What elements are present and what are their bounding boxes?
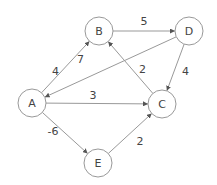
node-label: A bbox=[28, 97, 36, 110]
node-B: B bbox=[85, 17, 113, 45]
edge-C-B: 2 bbox=[108, 42, 153, 94]
edge-weight-label: 3 bbox=[90, 89, 97, 102]
edge-arrow bbox=[108, 42, 153, 94]
graph-diagram: 457243-62 ABCDE bbox=[0, 0, 217, 185]
node-D: D bbox=[175, 17, 203, 45]
node-label: B bbox=[95, 25, 103, 38]
edge-weight-label: 5 bbox=[141, 15, 148, 28]
edge-B-D: 5 bbox=[113, 15, 175, 32]
edge-weight-label: 4 bbox=[182, 65, 189, 78]
node-C: C bbox=[148, 90, 176, 118]
edge-weight-label: 7 bbox=[77, 53, 84, 66]
node-label: C bbox=[158, 98, 166, 111]
node-A: A bbox=[18, 89, 46, 117]
edge-arrow bbox=[46, 103, 148, 104]
edge-arrow bbox=[42, 41, 90, 93]
edge-weight-label: 2 bbox=[139, 63, 146, 76]
edge-A-E: -6 bbox=[42, 112, 87, 153]
edge-D-C: 4 bbox=[167, 44, 189, 91]
edge-D-A: 7 bbox=[45, 37, 177, 97]
node-label: E bbox=[95, 157, 102, 170]
edge-arrow bbox=[108, 113, 151, 153]
node-E: E bbox=[84, 149, 112, 177]
edge-A-C: 3 bbox=[46, 89, 148, 104]
node-label: D bbox=[185, 25, 193, 38]
edge-A-B: 4 bbox=[42, 41, 90, 93]
edge-weight-label: 2 bbox=[137, 135, 144, 148]
edge-weight-label: 4 bbox=[52, 65, 59, 78]
edge-weight-label: -6 bbox=[48, 125, 59, 138]
edge-arrow bbox=[45, 37, 177, 97]
edge-E-C: 2 bbox=[108, 113, 151, 153]
